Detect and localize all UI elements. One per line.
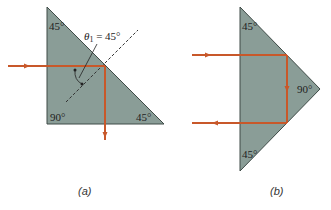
theta-label: θ1 = 45° — [84, 30, 121, 44]
arrow-icon — [103, 132, 108, 138]
angle-label-br-a: 45° — [136, 111, 151, 123]
caption-a: (a) — [78, 185, 92, 197]
angle-label-bottom-b: 45° — [242, 148, 257, 160]
prism-diagram: 45° 90° 45° θ1 = 45° (a) 45° 90° 45° (b) — [0, 0, 331, 210]
arrow-icon — [24, 64, 30, 69]
angle-label-right-b: 90° — [297, 83, 312, 95]
angle-label-top-a: 45° — [49, 20, 64, 32]
figure-a: 45° 90° 45° θ1 = 45° (a) — [8, 7, 164, 197]
arrow-icon — [205, 53, 211, 58]
caption-b: (b) — [270, 185, 284, 197]
angle-label-bl-a: 90° — [50, 111, 65, 123]
figure-b: 45° 90° 45° (b) — [192, 7, 320, 197]
angle-label-top-b: 45° — [242, 20, 257, 32]
arrow-icon — [212, 121, 218, 126]
